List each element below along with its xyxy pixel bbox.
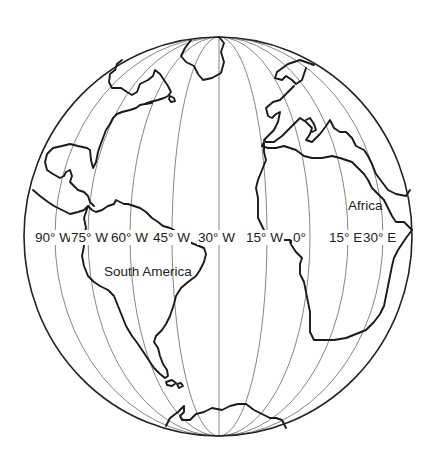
longitude-label-30w: 30° W <box>197 230 236 245</box>
coast-tierra-del-fuego <box>166 380 176 386</box>
coast-north-america <box>45 60 171 206</box>
longitude-label-75w: 75° W <box>70 230 109 245</box>
coast-scandinavia <box>275 60 314 84</box>
longitude-label-30e: 30° E <box>362 230 397 245</box>
longitude-label-90w: 90° W <box>34 230 73 245</box>
continent-label-africa: Africa <box>347 198 384 213</box>
coast-falklands <box>177 383 183 388</box>
globe-map: 90° W 75° W 60° W 45° W 30° W 15° W 0° 1… <box>0 0 435 459</box>
longitude-label-15e: 15° E <box>328 230 363 245</box>
coast-antarctica <box>166 404 286 428</box>
coast-greenland <box>181 37 224 80</box>
longitude-label-15w: 15° W <box>245 230 284 245</box>
coast-central-america <box>33 190 88 214</box>
coast-newfoundland <box>169 96 175 102</box>
continent-label-south-america: South America <box>103 264 193 279</box>
longitude-label-0: 0° <box>292 230 307 245</box>
longitude-label-45w: 45° W <box>152 230 191 245</box>
longitude-label-60w: 60° W <box>110 230 149 245</box>
coast-caribbean <box>145 103 152 104</box>
coast-south-america <box>82 200 206 378</box>
